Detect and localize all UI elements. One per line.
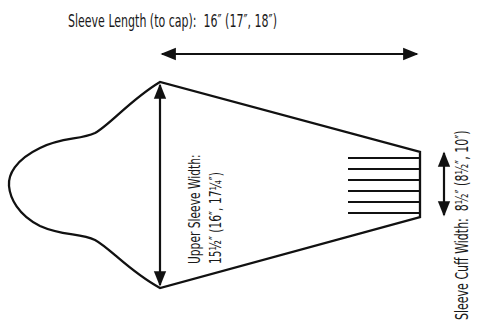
upper-sleeve-width-values: 15½″ (16″, 17¼″) [205,172,226,264]
sleeve-cuff-width-label: Sleeve Cuff Width: 8½″ (8½″, 10″) [452,57,472,320]
upper-sleeve-width-text: Upper Sleeve Width: [184,154,205,264]
cuff-width-text: Sleeve Cuff Width: [452,218,472,320]
sleeve-length-values: 16″ (17″, 18″) [204,11,277,31]
upper-sleeve-width-label: Upper Sleeve Width: 15½″ (16″, 17¼″) [184,112,226,264]
cuff-ribbing [348,158,420,213]
sleeve-schematic [0,0,494,333]
sleeve-length-label: Sleeve Length (to cap): 16″ (17″, 18″) [68,11,358,31]
cuff-width-values: 8½″ (8½″, 10″) [452,130,472,211]
sleeve-length-text: Sleeve Length (to cap): [68,11,197,31]
